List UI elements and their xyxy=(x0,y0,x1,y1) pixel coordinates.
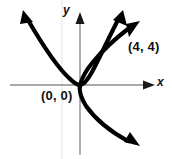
curve-y-equals-x-squared xyxy=(20,10,127,85)
x-axis-arrowhead xyxy=(143,81,155,90)
parabola-upward-path xyxy=(28,20,118,85)
origin-point-label: (0, 0) xyxy=(41,89,73,102)
math-graph-figure: y x (0, 0) (4, 4) xyxy=(0,0,172,159)
y-axis-arrowhead xyxy=(76,12,85,24)
x-axis-label: x xyxy=(157,76,164,88)
y-axis-label: y xyxy=(63,4,70,16)
plot-canvas xyxy=(0,0,172,159)
intersection-point-label: (4, 4) xyxy=(128,40,160,53)
sideways-upper-arrowhead xyxy=(126,21,140,37)
parabola-left-arrowhead xyxy=(20,10,33,24)
sideways-lower-arrowhead xyxy=(124,132,140,146)
